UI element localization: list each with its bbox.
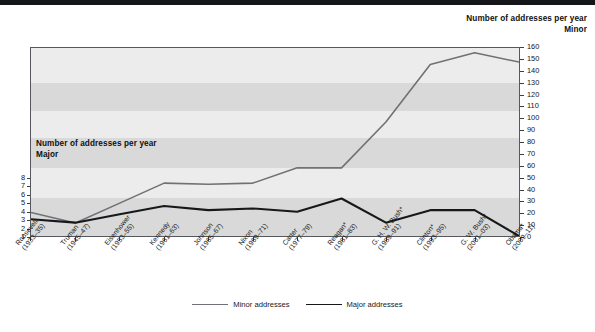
y-tick-right: 140 [520,71,590,72]
y-tick-right: 100 [520,118,590,119]
y-tick-right-label: 50 [527,173,535,182]
y-tick-right: 130 [520,83,590,84]
y-tick-left: 3 [0,220,30,221]
y-tick-left-label: 4 [21,207,25,216]
tick-mark-icon [520,59,524,60]
chart-title-minor-line2: Minor [466,24,587,35]
tick-mark-icon [520,213,524,214]
y-tick-right: 50 [520,178,590,179]
y-tick-right-label: 120 [527,90,539,99]
tick-mark-icon [520,83,524,84]
chart-title-minor: Number of addresses per year Minor [466,13,587,35]
legend-item-major: Major addresses [306,300,403,309]
y-tick-left: 4 [0,212,30,213]
y-tick-right: 70 [520,154,590,155]
tick-mark-icon [520,201,524,202]
y-tick-left-label: 3 [21,215,25,224]
y-tick-left-label: 7 [21,181,25,190]
y-tick-right-label: 40 [527,185,535,194]
legend-label-major: Major addresses [347,300,403,309]
chart-title-major-line2: Major [36,149,157,160]
y-tick-left: 5 [0,203,30,204]
tick-mark-icon [27,195,30,196]
y-tick-right-label: 90 [527,125,535,134]
y-tick-right-label: 70 [527,149,535,158]
tick-mark-icon [520,178,524,179]
y-tick-right-label: 160 [527,42,539,51]
y-tick-left-label: 5 [21,198,25,207]
y-tick-right: 20 [520,213,590,214]
y-tick-right: 90 [520,130,590,131]
y-tick-right: 150 [520,59,590,60]
y-tick-right: 30 [520,201,590,202]
y-tick-right: 120 [520,95,590,96]
y-tick-left-label: 8 [21,173,25,182]
y-tick-right: 160 [520,47,590,48]
chart-title-minor-line1: Number of addresses per year [466,13,587,24]
y-tick-right: 80 [520,142,590,143]
legend-label-minor: Minor addresses [233,300,289,309]
chart-page: Number of addresses per year Minor Numbe… [0,0,595,332]
y-tick-right-label: 110 [527,101,539,110]
page-edge-bar [0,0,595,5]
legend-swatch-major-icon [306,304,342,305]
y-tick-right-label: 130 [527,78,539,87]
y-tick-right-label: 30 [527,196,535,205]
y-axis-right-minor: 0102030405060708090100110120130140150160 [520,47,590,237]
tick-mark-icon [520,130,524,131]
x-axis-labels: Roosevelt(1933–35)Truman(1945–47)Eisenho… [0,236,595,298]
tick-mark-icon [520,106,524,107]
y-tick-right-label: 100 [527,113,539,122]
chart-legend: Minor addresses Major addresses [0,300,595,309]
y-tick-right-label: 140 [527,66,539,75]
legend-item-minor: Minor addresses [192,300,289,309]
y-tick-left: 8 [0,178,30,179]
y-tick-left-label: 6 [21,190,25,199]
tick-mark-icon [27,203,30,204]
tick-mark-icon [520,142,524,143]
tick-mark-icon [520,47,524,48]
y-tick-right-label: 20 [527,208,535,217]
y-tick-right-label: 80 [527,137,535,146]
tick-mark-icon [520,95,524,96]
tick-mark-icon [520,166,524,167]
y-tick-right-label: 60 [527,161,535,170]
tick-mark-icon [27,178,30,179]
chart-title-major-line1: Number of addresses per year [36,138,157,149]
tick-mark-icon [27,212,30,213]
tick-mark-icon [520,154,524,155]
y-tick-right: 40 [520,190,590,191]
tick-mark-icon [520,190,524,191]
y-tick-left: 6 [0,195,30,196]
tick-mark-icon [520,118,524,119]
legend-swatch-minor-icon [192,304,228,305]
chart-title-major: Number of addresses per year Major [36,138,157,160]
y-tick-left: 7 [0,186,30,187]
y-tick-right-label: 150 [527,54,539,63]
tick-mark-icon [520,71,524,72]
tick-mark-icon [27,186,30,187]
y-tick-right: 110 [520,106,590,107]
y-tick-right: 60 [520,166,590,167]
y-axis-left-major: 12345678 [0,47,30,237]
